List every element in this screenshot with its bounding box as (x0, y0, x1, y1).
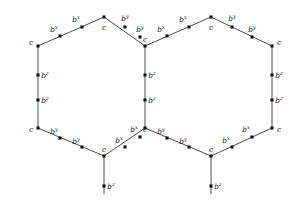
label-c-top-left: c (29, 38, 33, 47)
label-b-tr2-1: by (228, 13, 236, 23)
vertex-b-tr-1 (123, 25, 126, 28)
vertex-b-tr2-1 (230, 25, 233, 28)
label-b-tl-2: bx (72, 14, 80, 24)
vertex-c-top-mid-right (209, 15, 212, 18)
label-c-bot-mid-right: c (209, 145, 213, 154)
label-b-pend-left: bz (107, 181, 115, 191)
label-c-top-mid-right: c (209, 23, 213, 32)
diagram-canvas: ccccccccccbxbxbybybxbxbybybzbzbzbzbzbzby… (0, 0, 296, 201)
label-b-rv-2: bz (275, 95, 283, 105)
vertex-b-tr2-2 (250, 35, 253, 38)
label-b-bl-2: by (72, 136, 80, 146)
label-c-bot-right: c (277, 125, 281, 134)
vertex-c-top-right (270, 44, 273, 47)
vertex-b-tl-2 (80, 25, 83, 28)
label-b-bl2-1: by (157, 126, 165, 136)
vertex-b-bl-1 (58, 136, 61, 139)
vertex-b-br2-1 (230, 145, 233, 148)
label-b-bl2-2: by (179, 136, 187, 146)
vertex-c-bot-left (36, 126, 39, 129)
e-bot-left-up (104, 128, 145, 156)
vertex-b-pend-left (102, 184, 105, 187)
vertex-b-br2-2 (250, 135, 253, 138)
label-c-center-bot: c (143, 125, 147, 134)
label-b-tr2-2: by (248, 24, 256, 34)
vertex-b-bl-2 (80, 145, 83, 148)
label-b-tl2-2: bx (179, 14, 187, 24)
vertex-b-br-1 (123, 145, 126, 148)
e-bot-left-down (38, 128, 104, 156)
vertex-b-pend-right (209, 184, 212, 187)
vertex-b-tl-1 (58, 34, 61, 37)
e-bot-right-down (145, 128, 211, 156)
label-c-top-right: c (277, 38, 281, 47)
e-top-right-up (145, 17, 211, 46)
label-b-lv-1: bz (41, 70, 49, 80)
vertex-b-bl2-2 (187, 145, 190, 148)
hexagonal-lattice-diagram: ccccccccccbxbxbybybxbxbybybzbzbzbzbzbzby… (0, 0, 296, 201)
vertex-b-tr-2 (138, 35, 141, 38)
vertex-c-bot-mid-right (209, 154, 212, 157)
vertex-b-rv-1 (270, 73, 273, 76)
label-layer: ccccccccccbxbxbybybxbxbybybzbzbzbzbzbzby… (29, 13, 283, 191)
vertex-b-cv-2 (143, 98, 146, 101)
e-top-right-down (211, 17, 272, 46)
label-c-bot-mid-left: c (102, 145, 106, 154)
label-b-cv-2: bz (148, 95, 156, 105)
vertex-b-br-2 (138, 135, 141, 138)
vertex-b-lv-1 (36, 73, 39, 76)
vertex-b-cv-1 (143, 73, 146, 76)
label-b-cv-1: bz (148, 70, 156, 80)
vertex-b-tl2-2 (187, 25, 190, 28)
vertex-b-lv-2 (36, 98, 39, 101)
label-b-br2-1: bx (222, 135, 230, 145)
label-b-br-2: bx (130, 124, 138, 134)
label-b-tl-1: bx (50, 24, 58, 34)
label-c-top-mid-left: c (102, 23, 106, 32)
label-b-lv-2: bz (41, 95, 49, 105)
label-b-tl2-1: bx (157, 24, 165, 34)
edge-layer (38, 17, 272, 194)
label-c-bot-left: c (29, 125, 33, 134)
label-c-center-top: c (143, 35, 147, 44)
e-top-left-up (38, 17, 104, 46)
label-b-br2-2: bx (242, 124, 250, 134)
vertex-c-top-left (36, 44, 39, 47)
vertex-b-rv-2 (270, 98, 273, 101)
vertex-c-top-mid-left (102, 15, 105, 18)
label-b-tr-2: by (136, 24, 144, 34)
label-b-bl-1: by (50, 126, 58, 136)
vertex-c-bot-right (270, 126, 273, 129)
vertex-b-bl2-1 (165, 136, 168, 139)
label-b-rv-1: bz (275, 70, 283, 80)
label-b-tr-1: by (121, 13, 129, 23)
label-b-pend-right: bz (214, 181, 222, 191)
vertex-c-center-top (143, 44, 146, 47)
vertex-b-tl2-1 (165, 34, 168, 37)
vertex-c-bot-mid-left (102, 154, 105, 157)
